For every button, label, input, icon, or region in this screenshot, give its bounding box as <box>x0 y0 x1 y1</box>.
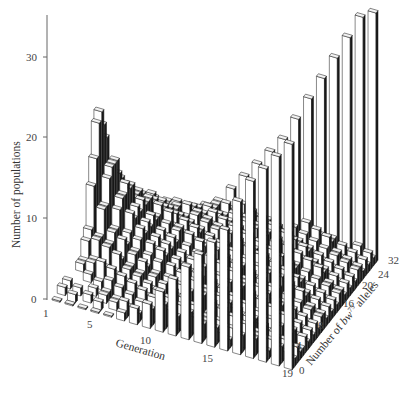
bar-face <box>153 307 155 326</box>
bar-face <box>127 299 129 318</box>
bar-face <box>243 333 245 352</box>
bar-face <box>366 257 368 276</box>
z-tick-label-0: 0 <box>31 293 37 305</box>
z-tick-label-20: 20 <box>26 131 38 143</box>
bar-face <box>282 344 284 363</box>
bar-face <box>358 267 360 286</box>
histogram-bar <box>168 275 178 336</box>
bar-face <box>256 337 258 356</box>
bar-face <box>220 228 228 351</box>
x-tick-label-19: 19 <box>282 367 294 379</box>
bar-face <box>329 304 331 323</box>
histogram-bar <box>368 8 378 262</box>
bar-face <box>363 15 365 259</box>
3d-histogram-chart: 0 10 20 30 Number of populations 1 5 10 … <box>0 0 412 394</box>
bar-face <box>142 302 150 328</box>
histogram-bar <box>329 53 339 251</box>
histogram-bar <box>220 225 230 351</box>
bar-face <box>271 154 279 366</box>
bar-face <box>94 261 96 280</box>
bar-face <box>233 200 241 355</box>
bar-face <box>192 310 194 337</box>
bar-face <box>163 290 165 333</box>
bar-face <box>189 265 191 340</box>
histogram-bar <box>52 296 62 302</box>
histogram-bar <box>78 304 88 310</box>
bar-face <box>241 199 243 354</box>
histogram-bar <box>258 164 268 362</box>
histogram-bar <box>181 263 191 340</box>
bar-face <box>194 253 202 344</box>
bar-face <box>355 15 363 259</box>
histogram-bar <box>117 308 127 321</box>
bar-face <box>150 302 152 329</box>
histogram-bar <box>355 13 365 259</box>
bar-face <box>316 76 324 247</box>
bar-face <box>266 167 268 363</box>
histogram-bar <box>233 197 243 355</box>
histogram-bar <box>83 270 93 283</box>
bar-face <box>181 265 189 340</box>
y-tick-label-4: 4 <box>296 339 302 351</box>
bar-face <box>258 167 266 363</box>
histogram-bar <box>284 140 294 370</box>
bar-face <box>202 253 204 344</box>
bar-face <box>376 11 378 263</box>
histogram-bar <box>83 290 93 303</box>
bar-face <box>137 306 139 325</box>
bar-face <box>311 328 313 347</box>
bar-face <box>292 142 294 370</box>
bar-face <box>155 290 163 333</box>
x-tick-label-15: 15 <box>202 352 214 364</box>
bar-face <box>253 179 255 359</box>
histogram-bar <box>271 152 281 366</box>
bar-face <box>179 314 181 333</box>
histogram-bar <box>76 259 86 272</box>
y-tick-label-8: 8 <box>318 319 324 331</box>
x-tick-label-5: 5 <box>87 318 93 330</box>
bar-face <box>368 11 376 263</box>
histogram-bar <box>342 33 352 255</box>
bar-face <box>217 325 219 344</box>
y-tick-label-32: 32 <box>388 254 399 266</box>
bar-face <box>350 35 352 255</box>
bar-face <box>112 278 114 297</box>
histogram-bar <box>142 300 152 329</box>
bar-face <box>324 311 326 330</box>
bar-face <box>207 240 215 347</box>
histogram-bar <box>129 304 139 325</box>
z-tick-label-10: 10 <box>26 212 38 224</box>
y-tick-label-24: 24 <box>378 268 390 280</box>
bar-face <box>215 240 217 347</box>
histogram-bar <box>246 177 256 359</box>
z-tick-label-30: 30 <box>26 51 38 63</box>
bar-face <box>299 117 301 240</box>
bar-face <box>166 302 168 329</box>
z-axis-title: Number of populations <box>10 141 23 248</box>
x-tick-label-1: 1 <box>43 307 49 319</box>
histogram-bar <box>104 311 114 317</box>
bar-face <box>305 334 307 353</box>
histogram-bar <box>207 238 217 347</box>
histogram-bar <box>57 283 67 296</box>
bar-face <box>312 96 314 243</box>
bar-face <box>329 56 337 252</box>
histogram-bar <box>316 74 326 248</box>
bar-face <box>279 154 281 366</box>
bar-face <box>337 56 339 252</box>
bar-face <box>129 306 137 324</box>
histogram-bar <box>155 287 165 332</box>
y-tick-label-0: 0 <box>299 364 305 376</box>
bar-face <box>371 251 373 270</box>
bar-face <box>168 277 176 336</box>
bar-face <box>176 277 178 336</box>
bar-face <box>246 179 254 358</box>
bar-face <box>228 228 230 351</box>
bar-face <box>284 142 292 370</box>
bar-face <box>339 291 341 310</box>
bar-face <box>205 322 207 341</box>
bar-face <box>334 298 336 317</box>
bar-face <box>342 35 350 255</box>
histogram-bar <box>194 250 204 343</box>
bars-group <box>52 8 378 370</box>
